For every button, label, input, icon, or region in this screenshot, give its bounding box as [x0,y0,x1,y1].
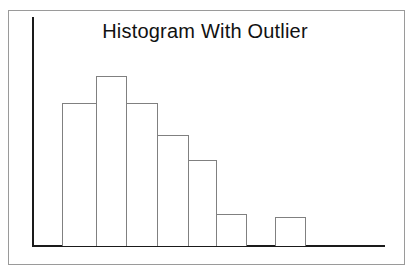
histogram-bar-bin6 [216,214,247,246]
histogram-bar-bin5 [188,160,217,246]
plot-area: Histogram With Outlier [0,0,415,275]
chart-title: Histogram With Outlier [60,20,350,43]
histogram-bar-bin4 [157,135,189,246]
histogram-bar-bin2 [96,76,127,246]
histogram-bar-outlier [275,217,306,246]
histogram-bar-bin3 [126,103,158,246]
figure: Histogram With Outlier [0,0,415,275]
histogram-bar-bin1 [62,103,97,246]
y-axis-line [32,17,34,247]
